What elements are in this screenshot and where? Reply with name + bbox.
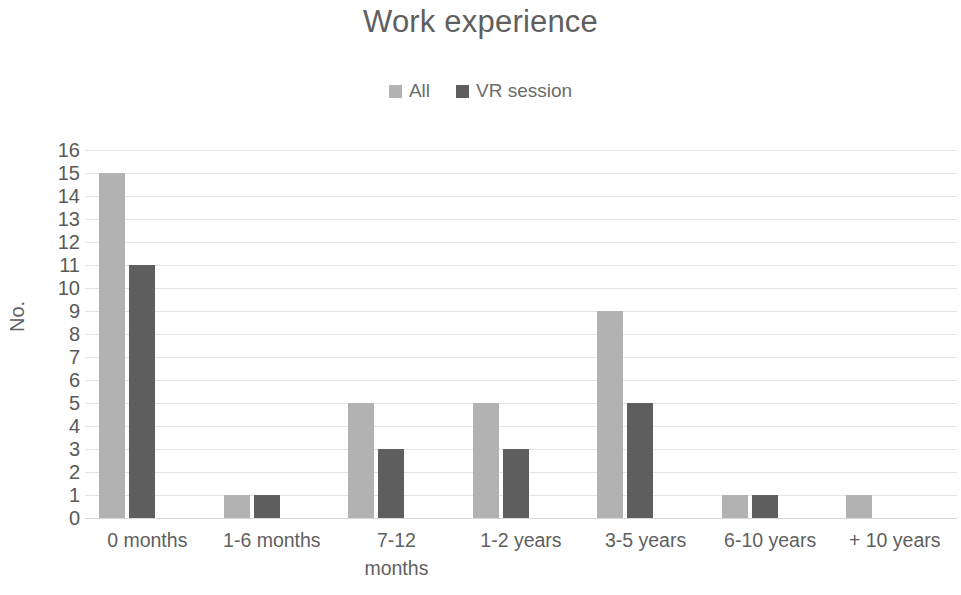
x-tick-label: 1-6 months (210, 526, 335, 554)
legend-swatch-all (389, 85, 402, 98)
gridline (85, 518, 957, 519)
y-tick-label: 2 (40, 462, 80, 482)
bar-vr-session[interactable] (254, 495, 280, 518)
legend-item-all[interactable]: All (389, 80, 430, 102)
bar-group (85, 150, 210, 518)
bar-group (210, 150, 335, 518)
y-tick-label: 11 (40, 255, 80, 275)
y-tick-label: 6 (40, 370, 80, 390)
plot-area (85, 150, 957, 518)
y-tick-label: 4 (40, 416, 80, 436)
x-tick-label: 7-12months (334, 526, 459, 582)
x-tick-label: 3-5 years (583, 526, 708, 554)
chart-title: Work experience (0, 4, 961, 40)
y-tick-label: 5 (40, 393, 80, 413)
bar-all[interactable] (348, 403, 374, 518)
bar-all[interactable] (473, 403, 499, 518)
bars-layer (85, 150, 957, 518)
x-axis-tick-labels: 0 months1-6 months7-12months1-2 years3-5… (85, 526, 957, 592)
bar-group (708, 150, 833, 518)
y-tick-label: 1 (40, 485, 80, 505)
y-tick-label: 0 (40, 508, 80, 528)
bar-all[interactable] (99, 173, 125, 518)
bar-all[interactable] (597, 311, 623, 518)
y-tick-label: 10 (40, 278, 80, 298)
y-axis-tick-labels: 161514131211109876543210 (40, 150, 80, 518)
bar-group (832, 150, 957, 518)
bar-vr-session[interactable] (627, 403, 653, 518)
y-tick-label: 8 (40, 324, 80, 344)
legend-label-all: All (409, 80, 430, 102)
bar-all[interactable] (224, 495, 250, 518)
y-axis-title: No. (6, 287, 29, 347)
work-experience-bar-chart: Work experience All VR session No. 16151… (0, 0, 961, 595)
bar-vr-session[interactable] (378, 449, 404, 518)
x-tick-label: 6-10 years (708, 526, 833, 554)
x-tick-label: + 10 years (832, 526, 957, 554)
bar-group (459, 150, 584, 518)
legend-item-vr-session[interactable]: VR session (456, 80, 572, 102)
y-tick-label: 15 (40, 163, 80, 183)
bar-vr-session[interactable] (129, 265, 155, 518)
legend-swatch-vr-session (456, 85, 469, 98)
y-tick-label: 16 (40, 140, 80, 160)
legend-label-vr-session: VR session (476, 80, 572, 102)
x-tick-label: 1-2 years (459, 526, 584, 554)
y-tick-label: 13 (40, 209, 80, 229)
bar-group (334, 150, 459, 518)
bar-vr-session[interactable] (752, 495, 778, 518)
bar-group (583, 150, 708, 518)
y-tick-label: 9 (40, 301, 80, 321)
y-tick-label: 12 (40, 232, 80, 252)
bar-all[interactable] (846, 495, 872, 518)
bar-vr-session[interactable] (503, 449, 529, 518)
y-tick-label: 14 (40, 186, 80, 206)
bar-all[interactable] (722, 495, 748, 518)
y-tick-label: 3 (40, 439, 80, 459)
x-tick-label: 0 months (85, 526, 210, 554)
y-tick-label: 7 (40, 347, 80, 367)
chart-legend: All VR session (0, 80, 961, 102)
